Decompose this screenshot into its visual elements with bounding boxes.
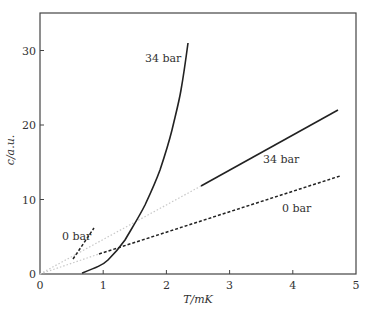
x-tick-2: 2 [163,279,170,292]
x-tick-labels: 0 1 2 3 4 5 [37,279,360,292]
y-tick-20: 20 [22,119,36,132]
annotation-34bar-left: 34 bar [145,52,182,65]
y-tick-labels: 0 10 20 30 [22,45,36,282]
extrapolation-0bar-dotted [40,254,99,274]
x-tick-0: 0 [37,279,44,292]
y-tick-0: 0 [29,268,36,281]
x-tick-3: 3 [226,279,233,292]
x-tick-5: 5 [353,279,360,292]
series-34bar-high-solid [201,110,338,186]
annotation-0bar-left: 0 bar [62,230,92,243]
y-axis-label: c/a.u. [4,135,17,166]
series-34bar-low-solid [82,43,188,273]
x-axis-label: T/mK [183,293,213,306]
y-tick-10: 10 [22,194,36,207]
annotation-0bar-right: 0 bar [282,202,312,215]
y-tick-30: 30 [22,45,36,58]
annotation-34bar-right: 34 bar [263,153,300,166]
series-0bar-high-dashed [99,176,340,254]
x-tick-1: 1 [100,279,107,292]
x-tick-4: 4 [289,279,296,292]
chart-canvas: 0 1 2 3 4 5 0 10 20 30 T/mK c/a.u. 34 ba… [0,0,369,310]
